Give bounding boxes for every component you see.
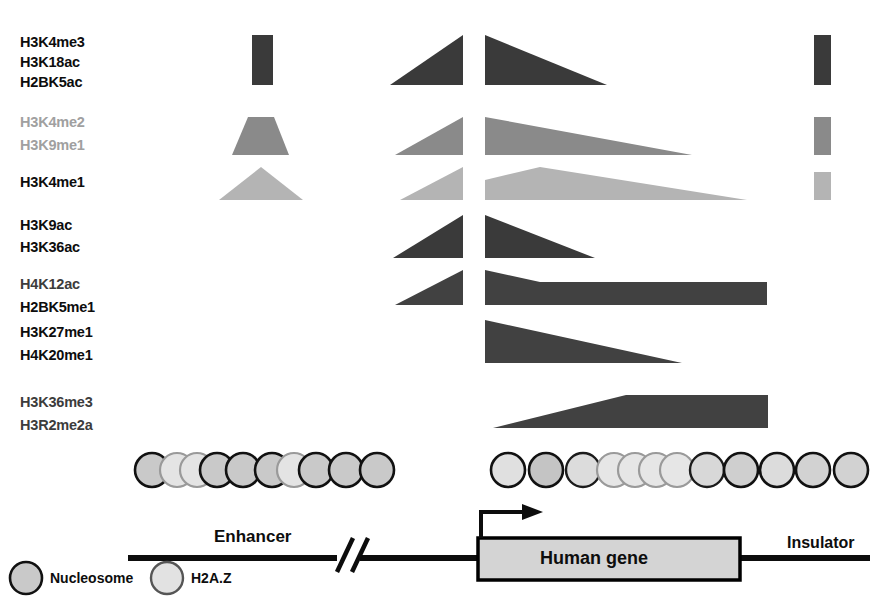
nucleosome	[529, 453, 563, 487]
break-slash-1	[337, 538, 353, 572]
gene-map-layer	[0, 0, 895, 611]
legend-label-nucleosome: Nucleosome	[50, 571, 133, 585]
nucleosome	[834, 453, 868, 487]
nucleosome	[760, 453, 794, 487]
nucleosome	[724, 453, 758, 487]
nucleosome	[566, 453, 600, 487]
nucleosome	[491, 453, 525, 487]
tss-arrow	[481, 504, 543, 538]
nucleosome-chain	[135, 453, 868, 487]
histone-modification-figure: H3K4me3 H3K18ac H2BK5ac H3K4me2 H3K9me1 …	[0, 0, 895, 611]
nucleosome	[329, 453, 363, 487]
insulator-label: Insulator	[787, 535, 855, 551]
legend-label-h2az: H2A.Z	[191, 571, 231, 585]
nucleosome	[796, 453, 830, 487]
enhancer-label: Enhancer	[214, 528, 291, 545]
legend-h2az-icon	[151, 562, 183, 594]
gene-label: Human gene	[540, 549, 648, 567]
nucleosome	[690, 453, 724, 487]
legend-nucleosome-icon	[10, 562, 42, 594]
nucleosome	[360, 453, 394, 487]
